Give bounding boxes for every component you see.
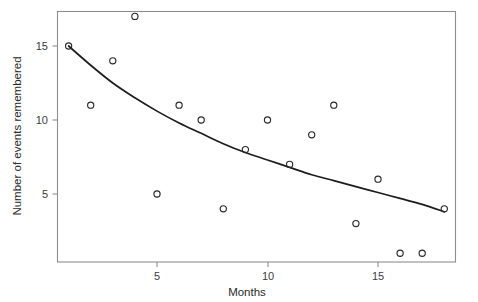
x-tick-label-5: 5 [154, 270, 160, 282]
data-point [264, 117, 270, 123]
data-point [375, 176, 381, 182]
plot-canvas: 15 10 5 5 10 15 Months Number of events … [0, 0, 478, 302]
y-tick-label-15: 15 [36, 40, 48, 52]
data-point [220, 206, 226, 212]
data-point [353, 221, 359, 227]
y-tick-label-10: 10 [36, 114, 48, 126]
x-tick-label-10: 10 [262, 270, 274, 282]
y-axis-ticks: 15 10 5 [36, 40, 58, 200]
fitted-curve [69, 46, 445, 212]
data-point [132, 13, 138, 19]
data-point [419, 250, 425, 256]
data-point [397, 250, 403, 256]
x-axis-ticks: 5 10 15 [154, 262, 384, 282]
x-tick-label-15: 15 [372, 270, 384, 282]
data-point [110, 58, 116, 64]
scatter-plot-figure: 15 10 5 5 10 15 Months Number of events … [0, 0, 478, 302]
data-point [331, 102, 337, 108]
y-axis-title: Number of events remembered [11, 56, 23, 215]
data-point [198, 117, 204, 123]
data-point [176, 102, 182, 108]
y-tick-label-5: 5 [42, 188, 48, 200]
plot-frame [58, 12, 456, 263]
data-point [309, 132, 315, 138]
data-point [88, 102, 94, 108]
data-point [154, 191, 160, 197]
x-axis-title: Months [228, 286, 266, 298]
data-point-group [66, 13, 448, 256]
